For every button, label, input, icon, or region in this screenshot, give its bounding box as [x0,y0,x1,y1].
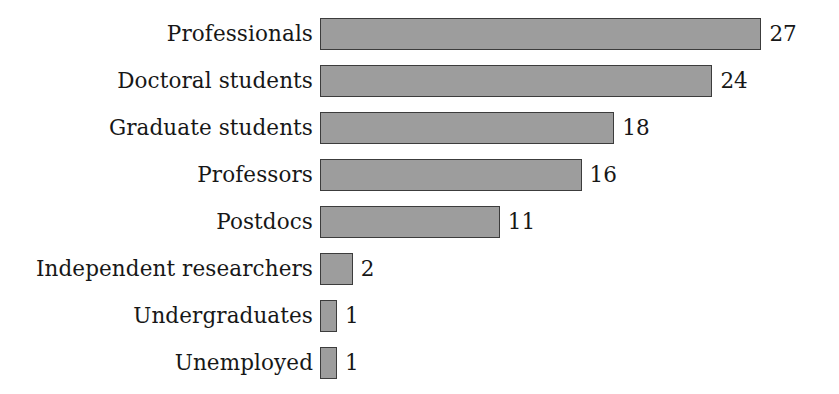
category-label: Independent researchers [36,258,313,280]
value-label: 2 [361,258,375,280]
category-label: Unemployed [175,352,313,374]
bar-row: Doctoral students24 [0,65,839,97]
bar [320,300,337,332]
value-label: 16 [590,164,617,186]
bar-row: Graduate students18 [0,112,839,144]
bar [320,18,761,50]
bar [320,253,353,285]
bar-row: Professionals27 [0,18,839,50]
bar-row: Professors16 [0,159,839,191]
category-label: Professors [197,164,313,186]
value-label: 27 [769,23,796,45]
value-label: 11 [508,211,535,233]
category-label: Undergraduates [133,305,313,327]
bar [320,206,500,238]
bar-row: Postdocs11 [0,206,839,238]
bar [320,347,337,379]
plot-area: Professionals27Doctoral students24Gradua… [0,0,839,394]
bar [320,65,712,97]
bar-chart: Professionals27Doctoral students24Gradua… [0,0,839,394]
category-label: Graduate students [109,117,313,139]
bar-row: Undergraduates1 [0,300,839,332]
category-label: Postdocs [216,211,313,233]
bar-row: Unemployed1 [0,347,839,379]
category-label: Professionals [167,23,313,45]
value-label: 24 [720,70,747,92]
bar [320,159,582,191]
value-label: 18 [622,117,649,139]
value-label: 1 [345,305,359,327]
bar [320,112,614,144]
value-label: 1 [345,352,359,374]
bar-row: Independent researchers2 [0,253,839,285]
category-label: Doctoral students [117,70,313,92]
